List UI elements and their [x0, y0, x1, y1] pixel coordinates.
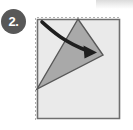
- step-number-badge: 2.: [1, 9, 26, 34]
- paper-folding-step-figure: 2.: [0, 0, 133, 130]
